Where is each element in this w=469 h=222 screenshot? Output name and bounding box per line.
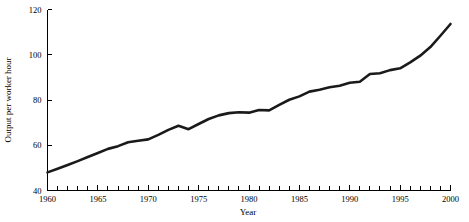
x-axis-title: Year (240, 207, 257, 217)
x-tick-label-1965: 1965 (89, 194, 106, 204)
y-axis-ticks (48, 10, 52, 191)
y-tick-label-80: 80 (33, 95, 42, 105)
chart-figure: 406080100120 196019651970197519801985199… (0, 0, 469, 222)
x-tick-label-1980: 1980 (241, 194, 258, 204)
x-tick-label-1970: 1970 (140, 194, 157, 204)
x-axis-ticks (48, 185, 451, 191)
x-tick-label-1960: 1960 (39, 194, 56, 204)
line-chart: 406080100120 196019651970197519801985199… (0, 0, 469, 222)
x-tick-label-1975: 1975 (190, 194, 207, 204)
x-tick-label-1995: 1995 (392, 194, 409, 204)
x-tick-label-1990: 1990 (341, 194, 358, 204)
y-tick-label-100: 100 (29, 50, 42, 60)
y-axis-title: Output per worker hour (3, 57, 13, 142)
y-tick-label-60: 60 (33, 140, 42, 150)
x-tick-label-1985: 1985 (291, 194, 308, 204)
y-tick-label-120: 120 (29, 5, 42, 15)
x-axis-tick-labels: 196019651970197519801985199019952000 (39, 194, 459, 204)
x-tick-label-2000: 2000 (442, 194, 459, 204)
y-axis-tick-labels: 406080100120 (29, 5, 42, 196)
data-series-line (48, 24, 451, 172)
